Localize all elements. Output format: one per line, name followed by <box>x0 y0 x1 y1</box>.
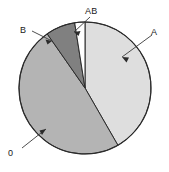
pie-chart-figure: A B AB 0 <box>0 0 169 172</box>
pie-label-o: 0 <box>8 148 13 158</box>
pie-label-b: B <box>20 25 26 35</box>
pie-label-ab: AB <box>85 6 97 16</box>
pie-label-a: A <box>151 27 157 37</box>
